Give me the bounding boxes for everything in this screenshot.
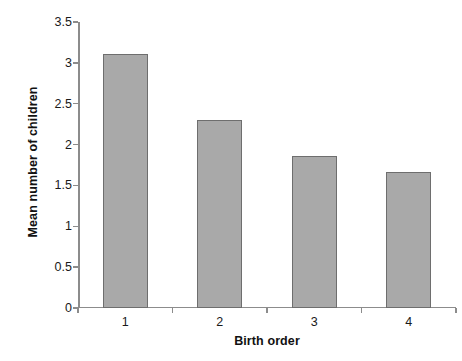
y-tick-label: 0.5 — [32, 260, 72, 274]
plot-area: 00.511.522.533.5 1234 — [78, 22, 456, 308]
x-tick-label: 2 — [190, 315, 250, 329]
y-tick-mark — [73, 62, 78, 64]
x-tick-label: 3 — [284, 315, 344, 329]
y-tick-label: 2 — [32, 138, 72, 152]
y-tick-label: 1.5 — [32, 178, 72, 192]
x-axis-title: Birth order — [78, 334, 456, 348]
y-tick-label: 1 — [32, 219, 72, 233]
y-tick-mark — [73, 266, 78, 268]
y-tick-mark — [73, 185, 78, 187]
x-tick-mark — [361, 308, 363, 313]
bar — [103, 54, 148, 308]
y-tick-label: 3.5 — [32, 15, 72, 29]
y-tick-mark — [73, 103, 78, 105]
x-tick-label: 4 — [379, 315, 439, 329]
x-tick-mark — [172, 308, 174, 313]
x-tick-mark — [77, 308, 79, 313]
y-tick-label: 3 — [32, 56, 72, 70]
bar-chart: Mean number of children 00.511.522.533.5… — [0, 0, 462, 361]
bar — [292, 156, 337, 308]
y-axis-line — [78, 22, 80, 308]
x-tick-mark — [455, 308, 457, 313]
y-tick-mark — [73, 144, 78, 146]
x-tick-mark — [266, 308, 268, 313]
y-tick-mark — [73, 21, 78, 23]
y-tick-label: 0 — [32, 301, 72, 315]
y-tick-mark — [73, 226, 78, 228]
bar — [197, 120, 242, 308]
bar — [386, 172, 431, 308]
x-tick-label: 1 — [95, 315, 155, 329]
y-tick-label: 2.5 — [32, 97, 72, 111]
